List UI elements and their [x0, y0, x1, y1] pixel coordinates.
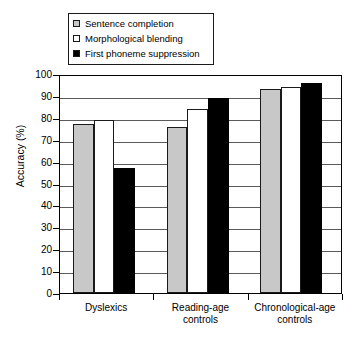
x-axis-tick-mark	[59, 294, 60, 300]
legend-item-sentence-completion: Sentence completion	[73, 16, 209, 31]
x-axis-group-label: Dyslexics	[59, 302, 153, 314]
y-axis-tick-label: 100	[2, 70, 52, 80]
x-axis-tick-mark	[248, 294, 249, 300]
y-axis-tick-label: 0	[2, 289, 52, 299]
y-axis-tick-label: 30	[2, 223, 52, 233]
bar	[208, 98, 229, 293]
x-axis-group-label: Reading-agecontrols	[153, 302, 247, 326]
legend-swatch-gray-icon	[73, 20, 80, 27]
legend-label: Morphological blending	[85, 33, 183, 44]
bar	[114, 168, 135, 293]
y-axis-tick-label: 10	[2, 267, 52, 277]
x-axis-group-label-line: Reading-age	[153, 302, 247, 314]
legend-swatch-black-icon	[73, 50, 80, 57]
bar	[301, 83, 322, 293]
legend-item-morphological-blending: Morphological blending	[73, 31, 209, 46]
y-axis-tick-label: 50	[2, 180, 52, 190]
bar	[94, 120, 115, 293]
x-axis-group-label: Chronological-agecontrols	[248, 302, 342, 326]
bar	[260, 89, 281, 293]
y-axis-tick-label: 80	[2, 114, 52, 124]
legend-label: Sentence completion	[85, 18, 174, 29]
plot-area	[59, 75, 342, 294]
y-axis-tick-label: 20	[2, 245, 52, 255]
x-axis-group-label-line: controls	[153, 314, 247, 326]
x-axis-tick-mark	[342, 294, 343, 300]
y-axis-tick-label: 60	[2, 158, 52, 168]
x-axis-group-label-line: controls	[248, 314, 342, 326]
chart-legend: Sentence completion Morphological blendi…	[68, 13, 214, 65]
legend-swatch-white-icon	[73, 35, 80, 42]
legend-label: First phoneme suppression	[85, 48, 200, 59]
x-axis-group-label-line: Dyslexics	[59, 302, 153, 314]
bar	[281, 87, 302, 293]
bar	[187, 109, 208, 293]
x-axis-tick-mark	[153, 294, 154, 300]
x-axis-group-label-line: Chronological-age	[248, 302, 342, 314]
bar	[167, 127, 188, 293]
y-axis-tick-label: 40	[2, 201, 52, 211]
y-axis-tick-label: 90	[2, 92, 52, 102]
y-axis-tick-label: 70	[2, 136, 52, 146]
bar	[73, 124, 94, 293]
bar-chart-figure: Sentence completion Morphological blendi…	[0, 0, 356, 341]
legend-item-first-phoneme-suppression: First phoneme suppression	[73, 46, 209, 61]
bars-layer	[60, 76, 341, 293]
